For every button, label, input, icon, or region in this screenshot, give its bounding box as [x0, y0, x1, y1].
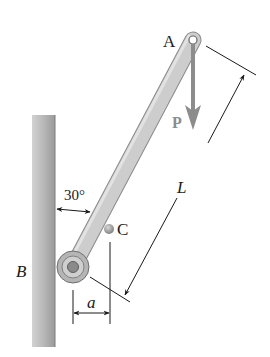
rod — [69, 36, 193, 267]
label-angle: 30° — [64, 187, 85, 203]
label-offset-a: a — [87, 293, 96, 312]
label-a-pin: A — [163, 32, 176, 51]
label-force-p: P — [172, 114, 182, 131]
pin-a-icon — [189, 36, 197, 44]
label-support-b: B — [16, 262, 27, 281]
roller-b-icon — [57, 251, 89, 283]
mass-center-c-icon — [104, 224, 114, 234]
angle-dimension-arrow — [57, 209, 90, 212]
label-mass-center-c: C — [117, 220, 128, 239]
wall-support — [32, 115, 55, 347]
mechanism-diagram: A P L 30° C B a — [0, 0, 270, 357]
label-length-l: L — [176, 178, 186, 197]
